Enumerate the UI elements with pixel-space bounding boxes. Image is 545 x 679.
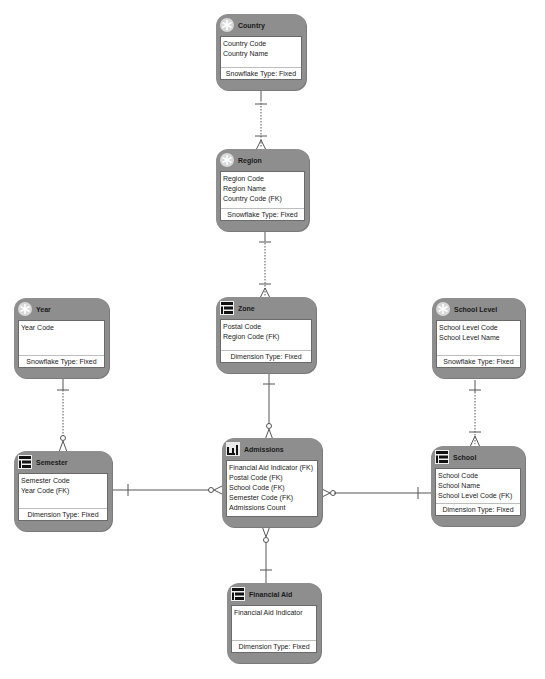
attribute: School Level Code <box>439 323 519 333</box>
entity-header: School Level <box>432 298 525 320</box>
attribute: Country Name <box>223 49 300 59</box>
entity-body: Region Code Region Name Country Code (FK… <box>220 171 305 221</box>
entity-header: Country <box>216 14 306 36</box>
attribute: School Code <box>438 471 519 481</box>
entity-header: Financial Aid <box>227 583 321 605</box>
entity-school[interactable]: School School Code School Name School Le… <box>431 446 525 526</box>
entity-type-footer: Snowflake Type: Fixed <box>221 208 304 220</box>
entity-title: School Level <box>454 306 497 313</box>
dimension-icon <box>18 455 32 469</box>
attribute: School Level Name <box>439 333 519 343</box>
entity-body: School Code School Name School Level Cod… <box>435 468 521 516</box>
entity-header: Zone <box>216 297 316 319</box>
attribute: Region Name <box>223 184 303 194</box>
snowflake-icon <box>18 302 32 316</box>
attribute: Country Code (FK) <box>223 194 303 204</box>
entity-body: Postal Code Region Code (FK) Dimension T… <box>220 319 312 363</box>
dimension-icon <box>435 450 449 464</box>
entity-zone[interactable]: Zone Postal Code Region Code (FK) Dimens… <box>216 297 316 373</box>
attribute: Admissions Count <box>229 503 316 513</box>
attribute: Year Code (FK) <box>21 486 106 496</box>
entity-type-footer: Snowflake Type: Fixed <box>437 355 520 367</box>
entity-country[interactable]: Country Country Code Country Name Snowfl… <box>216 14 306 90</box>
entity-title: Admissions <box>244 446 284 453</box>
diagram-canvas: Country Country Code Country Name Snowfl… <box>0 0 545 679</box>
entity-body: Financial Aid Indicator Dimension Type: … <box>231 605 317 653</box>
attribute: Region Code (FK) <box>223 332 310 342</box>
fact-table-icon <box>226 442 240 456</box>
entity-header: Region <box>216 149 309 171</box>
attribute: Semester Code <box>21 476 106 486</box>
entity-body: School Level Code School Level Name Snow… <box>436 320 521 368</box>
attribute: Region Code <box>223 174 303 184</box>
attribute: Year Code <box>21 323 103 333</box>
entity-type-footer: Dimension Type: Fixed <box>19 508 107 520</box>
entity-type-footer: Dimension Type: Fixed <box>232 640 316 652</box>
entity-header: Admissions <box>222 438 322 460</box>
attribute: Financial Aid Indicator (FK) <box>229 463 316 473</box>
entity-financial-aid[interactable]: Financial Aid Financial Aid Indicator Di… <box>227 583 321 663</box>
entity-title: Year <box>36 306 51 313</box>
snowflake-icon <box>220 18 234 32</box>
snowflake-icon <box>436 302 450 316</box>
entity-type-footer: Dimension Type: Fixed <box>221 350 311 362</box>
snowflake-icon <box>220 153 234 167</box>
entity-body: Semester Code Year Code (FK) Dimension T… <box>18 473 108 521</box>
entity-type-footer: Snowflake Type: Fixed <box>19 355 104 367</box>
attribute: Country Code <box>223 39 300 49</box>
entity-header: School <box>431 446 525 468</box>
attribute: School Level Code (FK) <box>438 491 519 501</box>
entity-school-level[interactable]: School Level School Level Code School Le… <box>432 298 525 378</box>
entity-admissions[interactable]: Admissions Financial Aid Indicator (FK) … <box>222 438 322 527</box>
entity-title: Region <box>238 157 262 164</box>
attribute: Postal Code <box>223 322 310 332</box>
entity-body: Financial Aid Indicator (FK) Postal Code… <box>226 460 318 517</box>
entity-year[interactable]: Year Year Code Snowflake Type: Fixed <box>14 298 109 378</box>
entity-type-footer: Dimension Type: Fixed <box>436 503 520 515</box>
entity-semester[interactable]: Semester Semester Code Year Code (FK) Di… <box>14 451 112 531</box>
attribute: Semester Code (FK) <box>229 493 316 503</box>
entity-title: School <box>453 454 476 461</box>
attribute: School Code (FK) <box>229 483 316 493</box>
entity-header: Semester <box>14 451 112 473</box>
dimension-icon <box>231 587 245 601</box>
attribute: Financial Aid Indicator <box>234 608 315 618</box>
dimension-icon <box>220 301 234 315</box>
entity-type-footer: Snowflake Type: Fixed <box>221 67 301 79</box>
entity-title: Zone <box>238 305 255 312</box>
entity-header: Year <box>14 298 109 320</box>
entity-body: Country Code Country Name Snowflake Type… <box>220 36 302 80</box>
entity-body: Year Code Snowflake Type: Fixed <box>18 320 105 368</box>
entity-title: Country <box>238 22 265 29</box>
entity-title: Semester <box>36 459 68 466</box>
entity-region[interactable]: Region Region Code Region Name Country C… <box>216 149 309 231</box>
attribute: Postal Code (FK) <box>229 473 316 483</box>
attribute: School Name <box>438 481 519 491</box>
entity-title: Financial Aid <box>249 591 292 598</box>
